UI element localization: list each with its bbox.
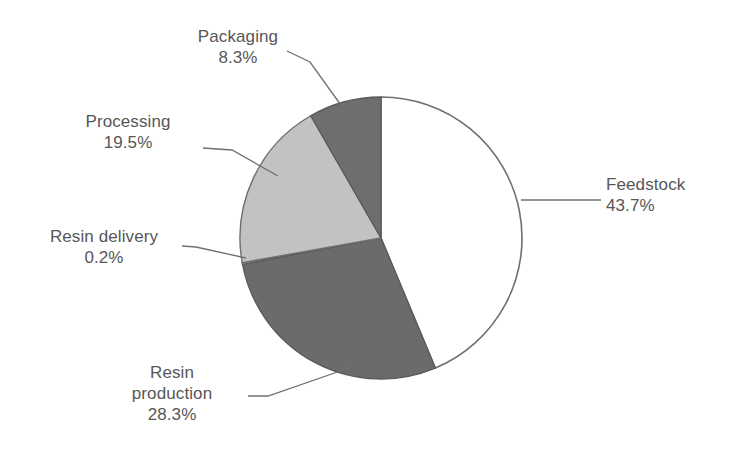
pie-label-resin-delivery-value: 0.2%	[16, 247, 192, 268]
leader-line-resin-production	[248, 368, 349, 396]
pie-label-processing-value: 19.5%	[52, 132, 204, 153]
pie-label-packaging: Packaging 8.3%	[168, 26, 308, 68]
pie-label-resin-production: Resin production 28.3%	[92, 362, 252, 425]
pie-label-feedstock-value: 43.7%	[606, 195, 726, 216]
pie-label-packaging-value: 8.3%	[168, 47, 308, 68]
pie-label-packaging-name: Packaging	[168, 26, 308, 47]
pie-label-resin-production-value: 28.3%	[92, 404, 252, 425]
pie-label-resin-delivery: Resin delivery 0.2%	[16, 226, 192, 268]
pie-label-resin-production-name-line1: Resin	[92, 362, 252, 383]
pie-label-feedstock-name: Feedstock	[606, 174, 726, 195]
pie-label-processing-name: Processing	[52, 111, 204, 132]
pie-slices	[240, 97, 522, 379]
pie-label-feedstock: Feedstock 43.7%	[606, 174, 726, 216]
pie-label-processing: Processing 19.5%	[52, 111, 204, 153]
pie-label-resin-delivery-name: Resin delivery	[16, 226, 192, 247]
pie-label-resin-production-name-line2: production	[92, 383, 252, 404]
pie-chart-figure: Packaging 8.3% Processing 19.5% Resin de…	[0, 0, 730, 462]
